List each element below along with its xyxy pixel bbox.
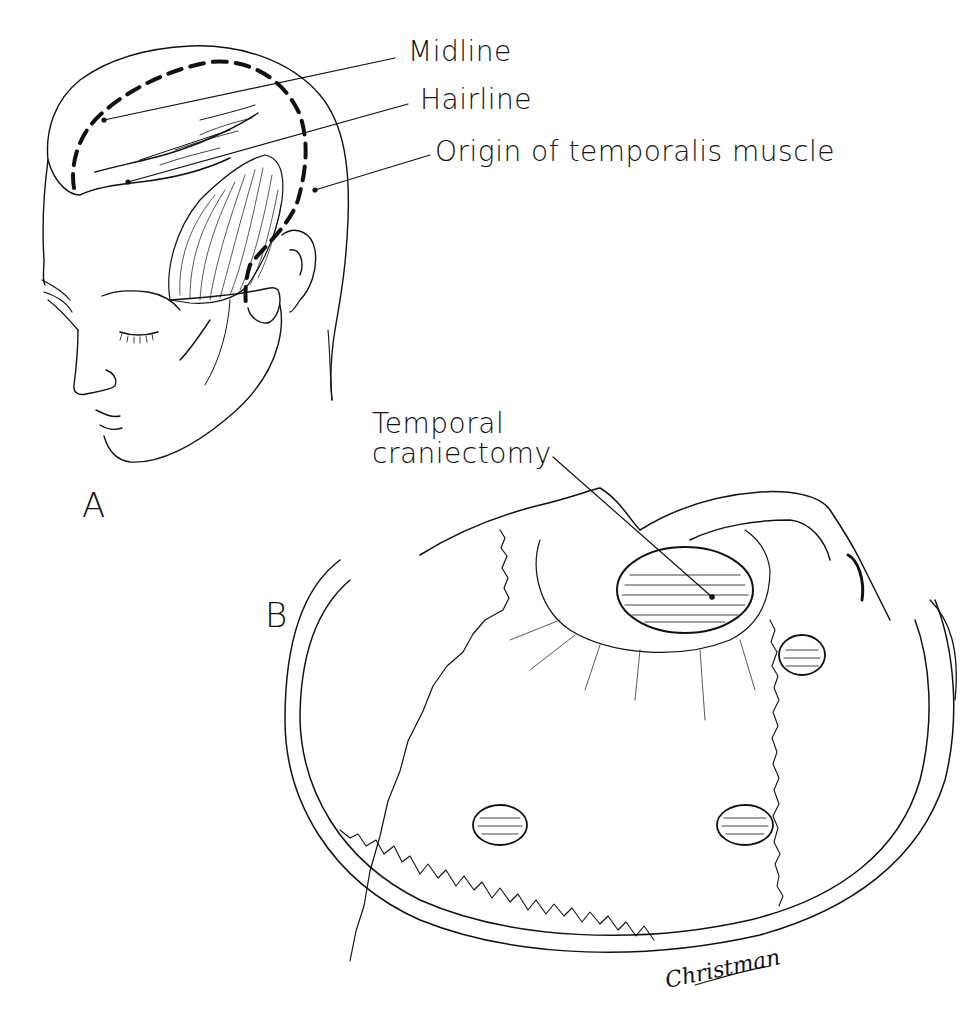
label-temporal: Temporal	[372, 410, 504, 438]
craniectomy-opening	[617, 547, 753, 633]
burr-hole-lower-left	[473, 805, 527, 845]
panel-letter-b: B	[265, 598, 288, 632]
skull-drawing	[285, 488, 956, 961]
leader-line-b	[553, 457, 714, 599]
head-drawing	[42, 46, 348, 462]
leader-lines-a	[102, 58, 430, 192]
surgical-illustration: Midline Hairline Origin of temporalis mu…	[0, 0, 974, 1011]
label-craniectomy: craniectomy	[372, 440, 552, 468]
panel-letter-a: A	[82, 488, 106, 522]
label-midline: Midline	[408, 38, 512, 66]
burr-hole-right-upper	[779, 635, 825, 675]
burr-hole-lower-right	[717, 805, 773, 845]
label-temporalis-origin: Origin of temporalis muscle	[435, 138, 835, 166]
label-hairline: Hairline	[420, 86, 532, 114]
